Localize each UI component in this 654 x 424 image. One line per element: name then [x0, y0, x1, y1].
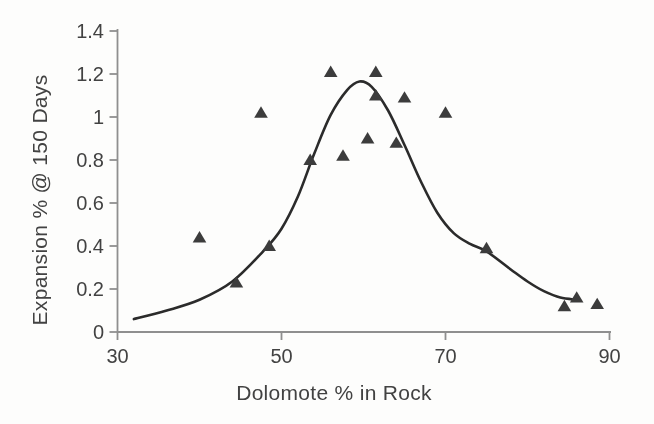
y-tick-label: 0.2 [76, 278, 104, 300]
x-axis-title: Dolomote % in Rock [236, 381, 432, 405]
data-point-marker [590, 298, 604, 309]
y-tick-label: 0.4 [76, 235, 104, 257]
scatter-chart-figure: 00.20.40.60.811.21.430507090 Dolomote % … [0, 0, 654, 424]
data-point-marker [254, 106, 268, 117]
y-tick-label: 1 [93, 106, 104, 128]
x-tick-label: 50 [270, 345, 292, 367]
data-point-marker [193, 231, 207, 242]
data-point-marker [570, 291, 584, 302]
y-tick-label: 1.2 [76, 63, 104, 85]
y-axis-title: Expansion % @ 150 Days [28, 75, 52, 326]
data-point-marker [361, 132, 375, 143]
data-point-marker [398, 91, 412, 102]
chart-canvas: 00.20.40.60.811.21.430507090 [0, 0, 654, 424]
fitted-curve [134, 81, 577, 319]
y-tick-label: 0.6 [76, 192, 104, 214]
y-tick-label: 0.8 [76, 149, 104, 171]
data-point-marker [369, 89, 383, 100]
data-point-marker [558, 300, 572, 311]
x-tick-label: 90 [598, 345, 620, 367]
y-tick-label: 1.4 [76, 20, 104, 42]
x-tick-label: 70 [434, 345, 456, 367]
data-point-marker [324, 66, 338, 77]
data-point-marker [369, 66, 383, 77]
x-tick-label: 30 [106, 345, 128, 367]
data-point-marker [439, 106, 453, 117]
y-tick-label: 0 [93, 321, 104, 343]
data-point-marker [262, 240, 276, 251]
data-point-marker [336, 149, 350, 160]
